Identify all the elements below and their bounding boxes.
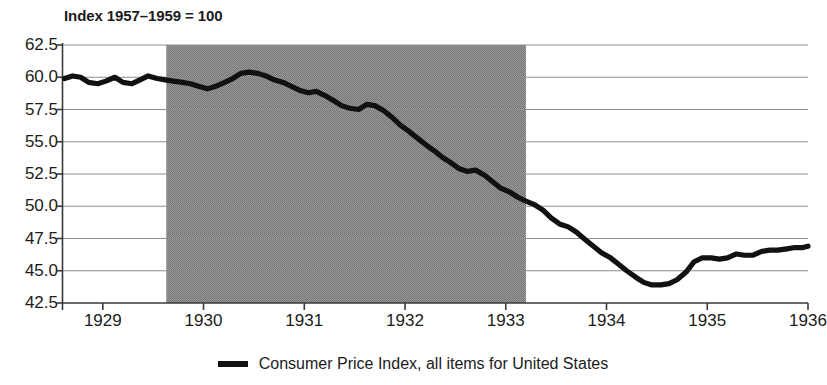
line-swatch-icon xyxy=(218,361,248,367)
x-tick-label: 1936 xyxy=(789,311,827,331)
x-tick-label: 1930 xyxy=(185,311,223,331)
x-tick-label: 1932 xyxy=(386,311,424,331)
chart-legend: Consumer Price Index, all items for Unit… xyxy=(0,355,826,373)
legend-label: Consumer Price Index, all items for Unit… xyxy=(259,355,608,373)
x-tick-label: 1935 xyxy=(688,311,726,331)
x-tick-label: 1931 xyxy=(285,311,323,331)
x-tick-label: 1934 xyxy=(588,311,626,331)
x-tick-label: 1933 xyxy=(487,311,525,331)
x-tick-label: 1929 xyxy=(84,311,122,331)
